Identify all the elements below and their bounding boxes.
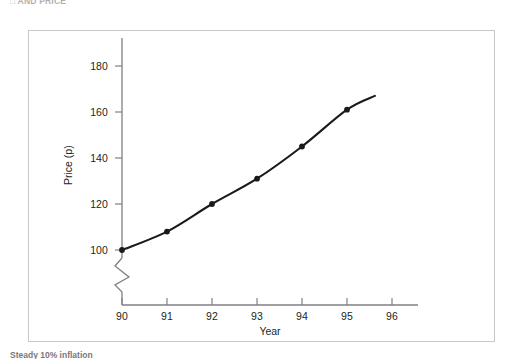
x-tick-label-93: 93 [242,310,272,322]
y-tick-label-120: 120 [68,198,108,210]
x-tick-label-95: 95 [332,310,362,322]
x-tick-label-94: 94 [287,310,317,322]
y-tick-label-180: 180 [68,60,108,72]
x-tick-label-91: 91 [152,310,182,322]
x-axis-title: Year [240,325,300,337]
y-tick-label-100: 100 [68,244,108,256]
page-top-heading-partial: □ AND PRICE [10,0,66,6]
x-tick-label-96: 96 [377,310,407,322]
chart-figure-root: □ AND PRICE [0,0,518,359]
y-tick-label-140: 140 [68,152,108,164]
x-tick-label-92: 92 [197,310,227,322]
figure-caption-partial: Steady 10% inflation [10,350,93,359]
y-tick-label-160: 160 [68,106,108,118]
figure-frame [28,30,495,342]
y-axis-title: Price (p) [62,145,74,185]
x-tick-label-90: 90 [107,310,137,322]
